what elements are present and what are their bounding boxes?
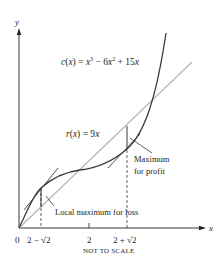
revenue-function-label: r(x) = 9x: [66, 129, 100, 140]
tick-label-0: 0: [15, 235, 20, 245]
profit-cost-chart: y x c(x) = x3 − 6x2 + 15x r(x) = 9x Maxi…: [0, 0, 224, 268]
tick-label-2-minus-sqrt2: 2 − √2: [27, 235, 51, 245]
loss-label: Local maximum for loss: [55, 207, 138, 217]
cost-function-label: c(x) = x3 − 6x2 + 15x: [61, 56, 140, 68]
profit-label-line2: for profit: [134, 166, 166, 176]
y-axis-label: y: [14, 17, 19, 27]
tick-label-2-plus-sqrt2: 2 + √2: [113, 235, 137, 245]
not-to-scale-note: NOT TO SCALE: [83, 247, 134, 255]
x-axis-label: x: [208, 223, 213, 233]
leader-profit: [130, 138, 152, 153]
tick-label-2: 2: [87, 235, 92, 245]
profit-label-line1: Maximum: [134, 154, 170, 164]
revenue-line: [19, 62, 192, 228]
y-axis-arrow-icon: [17, 28, 21, 35]
x-axis-arrow-icon: [199, 226, 206, 230]
